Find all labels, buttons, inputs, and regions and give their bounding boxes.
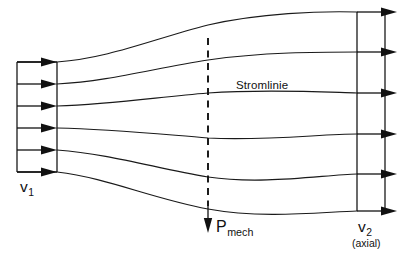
inlet-velocity-subscript: 1	[28, 187, 34, 198]
outlet-arrow-group	[357, 8, 397, 216]
outlet-arrow-6	[357, 207, 397, 216]
diagram-canvas	[0, 0, 402, 268]
inlet-profile-box	[17, 62, 57, 172]
outlet-arrow-1	[357, 8, 397, 17]
streamline-6-bottom	[57, 172, 357, 214]
outlet-profile-lines	[357, 12, 385, 211]
outlet-arrow-5	[357, 170, 397, 179]
power-subscript: mech	[227, 226, 253, 238]
inlet-arrow-2	[17, 80, 57, 89]
inlet-velocity-label: v1	[20, 179, 34, 195]
streamline-group	[57, 12, 357, 215]
inlet-velocity-symbol: v	[20, 178, 28, 195]
outlet-velocity-symbol: v	[358, 218, 366, 235]
outlet-velocity-label: v2	[358, 219, 372, 235]
power-extraction-plane	[204, 38, 212, 233]
power-symbol: P	[216, 218, 227, 235]
inlet-arrow-4	[17, 124, 57, 133]
inlet-arrow-3	[17, 102, 57, 111]
outlet-arrow-2	[357, 48, 397, 57]
outlet-qualifier-label: (axial)	[352, 238, 381, 249]
streamline-2	[57, 52, 357, 84]
streamline-5	[57, 150, 357, 180]
streamline-1-top	[57, 12, 357, 62]
inlet-arrow-1	[17, 58, 57, 67]
streamline-label: Stromlinie	[236, 80, 288, 92]
inlet-arrow-6	[17, 168, 57, 177]
streamline-4	[57, 128, 357, 139]
inlet-arrow-5	[17, 146, 57, 155]
outlet-arrow-3	[357, 89, 397, 98]
outlet-arrow-4	[357, 130, 397, 139]
streamtube-diagram: v1 Stromlinie Pmech v2 (axial)	[0, 0, 402, 268]
outlet-velocity-subscript: 2	[366, 227, 372, 238]
streamline-3-center	[57, 91, 357, 106]
power-label: Pmech	[216, 219, 253, 235]
inlet-arrow-group	[17, 58, 57, 177]
